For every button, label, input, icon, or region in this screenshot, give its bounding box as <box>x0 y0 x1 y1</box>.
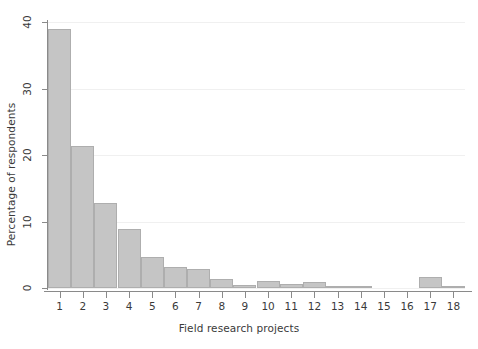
bar <box>71 146 94 288</box>
x-axis-title: Field research projects <box>0 322 478 334</box>
bar <box>442 286 465 288</box>
x-axis-tick <box>83 292 84 298</box>
x-axis-tick <box>129 292 130 298</box>
bar <box>280 284 303 288</box>
x-axis-tick <box>245 292 246 298</box>
x-axis-tick-label: 18 <box>439 300 467 312</box>
bar <box>118 229 141 288</box>
x-axis-tick <box>175 292 176 298</box>
y-axis-tick-label: 0 <box>20 275 34 301</box>
bar <box>141 257 164 288</box>
bar <box>326 286 349 288</box>
bar <box>187 269 210 288</box>
y-axis-tick-label: 40 <box>20 9 34 35</box>
x-axis-tick <box>222 292 223 298</box>
x-axis-tick <box>384 292 385 298</box>
x-axis-tick <box>106 292 107 298</box>
x-axis-tick <box>291 292 292 298</box>
x-axis-tick <box>453 292 454 298</box>
x-axis-tick <box>338 292 339 298</box>
bar <box>349 286 372 288</box>
y-axis-tick <box>42 288 48 289</box>
y-axis-title: Percentage of respondents <box>0 0 22 349</box>
x-axis-tick <box>268 292 269 298</box>
bar <box>164 267 187 288</box>
bar <box>303 282 326 288</box>
bar <box>94 203 117 288</box>
x-axis-tick <box>152 292 153 298</box>
x-axis-tick <box>407 292 408 298</box>
x-axis-tick <box>361 292 362 298</box>
bar <box>233 285 256 288</box>
bar <box>48 29 71 288</box>
x-axis-tick <box>430 292 431 298</box>
bar <box>210 279 233 288</box>
x-axis-tick <box>314 292 315 298</box>
bar <box>257 281 280 288</box>
bar-series <box>48 22 465 288</box>
y-axis-tick-label: 30 <box>20 76 34 102</box>
y-axis-tick-label: 10 <box>20 209 34 235</box>
y-axis-tick-label: 20 <box>20 142 34 168</box>
x-axis-tick <box>60 292 61 298</box>
gridline <box>48 288 465 289</box>
histogram-chart: Percentage of respondents 010203040 1234… <box>0 0 478 349</box>
bar <box>419 277 442 288</box>
x-axis-tick <box>199 292 200 298</box>
